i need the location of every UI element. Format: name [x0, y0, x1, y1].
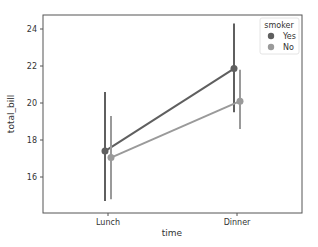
legend-marker-no — [268, 44, 274, 50]
legend-label-yes: Yes — [282, 32, 296, 41]
legend-marker-yes — [268, 33, 274, 39]
data-point — [237, 98, 244, 105]
data-point — [102, 148, 109, 155]
y-tick-label: 20 — [27, 99, 37, 108]
x-tick-label: Lunch — [96, 218, 120, 227]
y-tick-label: 24 — [27, 25, 37, 34]
y-tick-label: 18 — [27, 136, 37, 145]
x-tick-label: Dinner — [224, 218, 251, 227]
x-axis-label: time — [162, 228, 183, 238]
data-point — [108, 154, 115, 161]
y-axis-ticks: 1618202224 — [27, 25, 43, 182]
y-axis-label: total_bill — [6, 95, 16, 133]
legend-label-no: No — [283, 43, 294, 52]
legend: smoker Yes No — [260, 18, 299, 54]
data-point — [231, 65, 238, 72]
x-axis-ticks: LunchDinner — [96, 213, 251, 227]
legend-title: smoker — [264, 21, 294, 30]
y-tick-label: 22 — [27, 62, 37, 71]
point-plot: 1618202224 LunchDinner total_bill time s… — [0, 0, 318, 247]
y-tick-label: 16 — [27, 173, 37, 182]
